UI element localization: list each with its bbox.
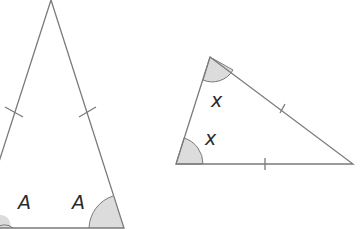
triangles-figure: A A x x xyxy=(0,0,360,229)
angle-arc-top xyxy=(203,57,233,82)
second-triangle: x x xyxy=(176,57,353,170)
angle-label-x-top: x xyxy=(210,89,223,111)
angle-label-a-left: A xyxy=(16,191,31,213)
triangle-sides xyxy=(176,57,353,164)
angle-label-x-bottom: x xyxy=(204,127,217,149)
angle-label-a-right: A xyxy=(70,191,85,213)
diagram-canvas: A A x x xyxy=(0,0,360,229)
isosceles-triangle: A A xyxy=(0,0,124,229)
